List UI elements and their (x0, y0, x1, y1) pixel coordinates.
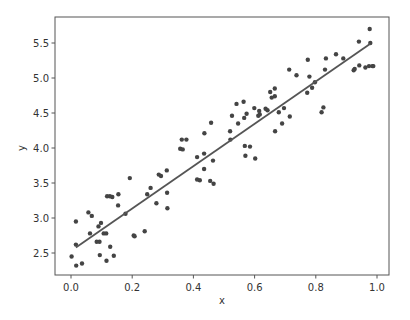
data-point (209, 121, 213, 125)
data-point (294, 73, 298, 77)
data-point (143, 229, 147, 233)
y-tick-label: 3.5 (33, 178, 49, 189)
data-point (307, 74, 311, 78)
data-point (116, 203, 120, 207)
data-point (228, 129, 232, 133)
data-point (112, 254, 116, 258)
y-tick-label: 4.0 (33, 143, 49, 154)
data-point (319, 110, 323, 114)
data-point (273, 94, 277, 98)
data-point (357, 63, 361, 67)
data-point (273, 129, 277, 133)
data-point (211, 182, 215, 186)
data-point (252, 106, 256, 110)
data-point (195, 155, 199, 159)
x-tick-label: 0.2 (124, 282, 140, 293)
data-point (306, 58, 310, 62)
data-point (341, 56, 345, 60)
data-point (88, 231, 92, 235)
data-point (184, 137, 188, 141)
data-point (208, 179, 212, 183)
data-point (310, 86, 314, 90)
data-point (154, 201, 158, 205)
data-point (80, 261, 84, 265)
data-point (108, 245, 112, 249)
y-axis-label: y (16, 145, 27, 151)
data-point (202, 167, 206, 171)
data-point (244, 112, 248, 116)
data-point (236, 121, 240, 125)
data-point (145, 192, 149, 196)
x-axis-ticks: 0.00.20.40.60.81.0 (63, 275, 385, 293)
data-point (280, 121, 284, 125)
data-point (159, 174, 163, 178)
data-point (180, 137, 184, 141)
data-point (288, 114, 292, 118)
data-point (69, 254, 73, 258)
data-point (353, 67, 357, 71)
data-point (242, 116, 246, 120)
data-point (116, 192, 120, 196)
y-tick-label: 5.0 (33, 73, 49, 84)
data-point (368, 27, 372, 31)
data-point (97, 240, 101, 244)
data-point (165, 168, 169, 172)
x-tick-label: 0.6 (247, 282, 263, 293)
data-point (241, 100, 245, 104)
data-point (305, 91, 309, 95)
x-tick-label: 0.0 (63, 282, 79, 293)
y-tick-label: 3.0 (33, 213, 49, 224)
data-point (253, 156, 257, 160)
data-point (104, 259, 108, 263)
data-point (334, 52, 338, 56)
data-point (258, 112, 262, 116)
data-point (181, 147, 185, 151)
y-axis-ticks: 2.53.03.54.04.55.05.5 (33, 38, 55, 259)
data-point (371, 64, 375, 68)
scatter-chart: 0.00.20.40.60.81.0 2.53.03.54.04.55.05.5… (0, 0, 410, 320)
y-tick-label: 5.5 (33, 38, 49, 49)
x-tick-label: 1.0 (369, 282, 385, 293)
data-point (323, 67, 327, 71)
y-tick-label: 4.5 (33, 108, 49, 119)
data-point (86, 210, 90, 214)
data-point (74, 219, 78, 223)
data-point (268, 90, 272, 94)
data-point (234, 102, 238, 106)
data-point (277, 110, 281, 114)
data-point (128, 176, 132, 180)
data-point (357, 39, 361, 43)
x-axis-label: x (219, 295, 225, 306)
x-tick-label: 0.8 (308, 282, 324, 293)
data-point (148, 186, 152, 190)
data-point (74, 263, 78, 267)
data-point (211, 158, 215, 162)
data-point (265, 108, 269, 112)
data-point (132, 234, 136, 238)
data-point (230, 114, 234, 118)
data-point (202, 151, 206, 155)
data-point (198, 178, 202, 182)
data-point (243, 154, 247, 158)
data-point (110, 195, 114, 199)
data-point (282, 106, 286, 110)
data-point (321, 105, 325, 109)
x-tick-label: 0.4 (185, 282, 201, 293)
data-point (165, 191, 169, 195)
data-point (98, 253, 102, 257)
data-point (287, 67, 291, 71)
data-point (243, 144, 247, 148)
data-point (324, 56, 328, 60)
data-point (248, 144, 252, 148)
data-point (273, 86, 277, 90)
y-tick-label: 2.5 (33, 248, 49, 259)
data-point (165, 206, 169, 210)
data-point (99, 221, 103, 225)
data-point (104, 231, 108, 235)
data-point (202, 131, 206, 135)
data-point (90, 214, 94, 218)
